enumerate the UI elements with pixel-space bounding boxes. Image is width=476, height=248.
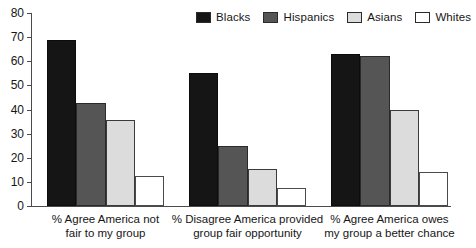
bar-whites-group3[interactable]: [419, 172, 448, 206]
bar-blacks-group2[interactable]: [189, 73, 218, 206]
bar-whites-group1[interactable]: [135, 176, 164, 206]
bar-hispanics-group2[interactable]: [218, 146, 247, 206]
y-tick-label: 30: [11, 128, 24, 140]
y-tick-mark: [27, 182, 32, 183]
y-tick-mark: [27, 206, 32, 207]
y-tick-mark: [27, 134, 32, 135]
bar-group-2: [189, 13, 306, 206]
category-label-line: % Agree America owes: [300, 212, 476, 226]
y-tick-label: 70: [11, 31, 24, 43]
bar-asians-group1[interactable]: [106, 120, 135, 206]
y-tick-label: 60: [11, 55, 24, 67]
y-tick-mark: [27, 110, 32, 111]
bar-asians-group2[interactable]: [248, 169, 277, 206]
bar-asians-group3[interactable]: [390, 110, 419, 207]
bar-group-1: [47, 13, 164, 206]
bar-hispanics-group1[interactable]: [76, 103, 105, 206]
bar-blacks-group3[interactable]: [331, 54, 360, 206]
bar-hispanics-group3[interactable]: [360, 56, 389, 206]
category-label-3: % Agree America owesmy group a better ch…: [300, 212, 476, 240]
y-tick-label: 20: [11, 152, 24, 164]
bar-blacks-group1[interactable]: [47, 40, 76, 206]
y-tick-mark: [27, 85, 32, 86]
category-label-line: my group a better chance: [300, 226, 476, 240]
y-tick-label: 50: [11, 79, 24, 91]
y-tick-label: 10: [11, 176, 24, 188]
y-tick-mark: [27, 37, 32, 38]
y-tick-mark: [27, 158, 32, 159]
y-tick-label: 80: [11, 7, 24, 19]
plot-area: 80706050403020100: [31, 13, 451, 207]
x-axis-line: [31, 206, 451, 207]
y-tick-label: 40: [11, 104, 24, 116]
bar-whites-group2[interactable]: [277, 188, 306, 206]
y-tick-label: 0: [17, 200, 24, 212]
y-tick-mark: [27, 13, 32, 14]
y-tick-mark: [27, 61, 32, 62]
bar-group-3: [331, 13, 448, 206]
